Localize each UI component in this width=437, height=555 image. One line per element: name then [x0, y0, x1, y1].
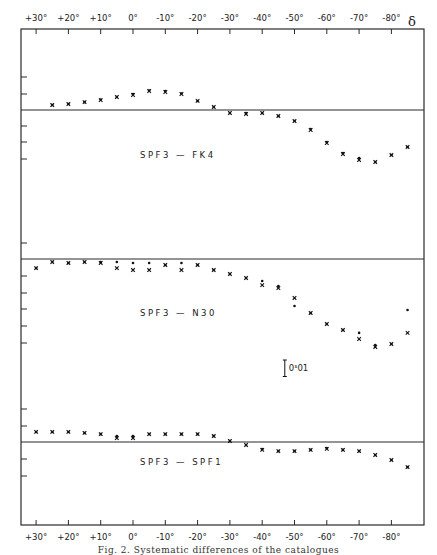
bottom-tick-label: +20°	[57, 532, 79, 542]
cross-marker	[180, 268, 184, 272]
panel-label: SPF3 — N30	[140, 308, 217, 318]
dot-marker	[83, 432, 86, 435]
top-tick-label: -60°	[318, 13, 336, 23]
dot-marker	[132, 435, 135, 438]
cross-marker	[406, 331, 410, 335]
top-tick-label: -10°	[156, 13, 174, 23]
dot-marker	[326, 447, 329, 450]
dot-marker	[67, 103, 70, 106]
dot-marker	[358, 157, 361, 160]
dot-marker	[342, 449, 345, 452]
top-tick-label: +30°	[25, 13, 47, 23]
cross-marker	[115, 266, 119, 270]
top-tick-label: -30°	[221, 13, 239, 23]
dot-marker	[261, 112, 264, 115]
top-tick-label: -70°	[350, 13, 368, 23]
dot-marker	[99, 433, 102, 436]
dot-marker	[148, 433, 151, 436]
dot-marker	[406, 146, 409, 149]
dot-marker	[277, 115, 280, 118]
dot-marker	[212, 435, 215, 438]
dot-marker	[51, 431, 54, 434]
dot-marker	[326, 323, 329, 326]
dot-marker	[229, 273, 232, 276]
dot-marker	[390, 154, 393, 157]
dot-marker	[374, 161, 377, 164]
dot-marker	[342, 152, 345, 155]
dot-marker	[358, 332, 361, 335]
top-tick-label: +20°	[57, 13, 79, 23]
dot-marker	[358, 450, 361, 453]
bottom-tick-label: -50°	[285, 532, 303, 542]
dot-marker	[67, 262, 70, 265]
bottom-x-axis: +30°+20°+10°0°-10°-20°-30°-40°-50°-60°-7…	[25, 520, 400, 542]
dot-marker	[245, 112, 248, 115]
dot-marker	[180, 433, 183, 436]
dot-marker	[99, 261, 102, 264]
dot-marker	[116, 435, 119, 438]
top-tick-label: -20°	[189, 13, 207, 23]
scale-bar-label: 0ˢ01	[289, 363, 308, 373]
top-tick-label: +10°	[90, 13, 112, 23]
cross-marker	[260, 283, 264, 287]
dot-marker	[261, 280, 264, 283]
dot-marker	[293, 450, 296, 453]
dot-marker	[277, 285, 280, 288]
dot-marker	[196, 433, 199, 436]
figure-caption: Fig. 2. Systematic differences of the ca…	[0, 545, 437, 555]
dot-marker	[245, 444, 248, 447]
panel-label: SPF3 — SPF1	[140, 457, 223, 467]
panels: SPF3 — FK4SPF3 — N30SPF3 — SPF1	[21, 77, 424, 476]
dot-marker	[374, 454, 377, 457]
panel-spf3-spf1: SPF3 — SPF1	[21, 409, 424, 476]
cross-marker	[357, 337, 361, 341]
panel-spf3-fk4: SPF3 — FK4	[21, 77, 424, 164]
dot-marker	[229, 440, 232, 443]
scale-bar-0-01s: 0ˢ01	[283, 360, 308, 377]
dot-marker	[164, 433, 167, 436]
dot-marker	[51, 104, 54, 107]
dot-marker	[212, 269, 215, 272]
dot-marker	[116, 96, 119, 99]
dot-marker	[229, 112, 232, 115]
dot-marker	[132, 93, 135, 96]
dot-marker	[342, 329, 345, 332]
dot-marker	[390, 459, 393, 462]
top-tick-label: -50°	[285, 13, 303, 23]
dot-marker	[83, 261, 86, 264]
dot-marker	[309, 128, 312, 131]
bottom-tick-label: +30°	[25, 532, 47, 542]
dot-marker	[277, 450, 280, 453]
dot-marker	[196, 100, 199, 103]
top-tick-label: -80°	[382, 13, 400, 23]
dot-marker	[164, 264, 167, 267]
dot-marker	[374, 344, 377, 347]
dot-marker	[293, 120, 296, 123]
dot-marker	[196, 264, 199, 267]
dot-marker	[99, 98, 102, 101]
bottom-tick-label: -10°	[156, 532, 174, 542]
dot-marker	[309, 312, 312, 315]
dot-marker	[148, 89, 151, 92]
dot-marker	[67, 431, 70, 434]
chart-figure: +30°+20°+10°0°-10°-20°-30°-40°-50°-60°-7…	[0, 0, 437, 555]
top-tick-label: 0°	[128, 13, 138, 23]
bottom-tick-label: -80°	[382, 532, 400, 542]
bottom-tick-label: +10°	[90, 532, 112, 542]
cross-marker	[131, 268, 135, 272]
dot-marker	[180, 92, 183, 95]
cross-marker	[293, 296, 297, 300]
dot-marker	[406, 309, 409, 312]
dot-marker	[35, 431, 38, 434]
bottom-tick-label: -40°	[253, 532, 271, 542]
dot-marker	[390, 343, 393, 346]
top-x-axis: +30°+20°+10°0°-10°-20°-30°-40°-50°-60°-7…	[25, 13, 400, 34]
bottom-tick-label: -20°	[189, 532, 207, 542]
dot-marker	[293, 305, 296, 308]
dot-marker	[261, 448, 264, 451]
dot-marker	[132, 262, 135, 265]
dot-marker	[148, 262, 151, 265]
cross-marker	[147, 268, 151, 272]
dot-marker	[180, 262, 183, 265]
dot-marker	[83, 101, 86, 104]
